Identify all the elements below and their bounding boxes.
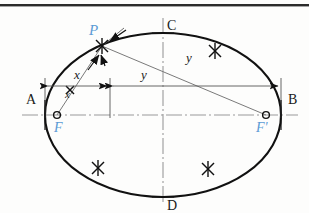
label-covertex-c: C [167, 18, 176, 33]
label-distance-y: y [139, 67, 147, 82]
label-point-p: P [88, 22, 98, 38]
label-focus-left: F [53, 120, 63, 135]
label-distance-y-upper: y [184, 50, 192, 65]
label-distance-x-lower: x [64, 88, 70, 100]
label-covertex-d: D [167, 198, 177, 213]
label-vertex-a: A [26, 92, 37, 107]
figure-canvas: A B C D F F' P x y x y [0, 0, 309, 213]
label-focus-right: F' [255, 120, 269, 135]
top-rule-shadow [0, 6, 309, 7]
ellipse-construction-figure: A B C D F F' P x y x y [0, 0, 309, 213]
top-rule [0, 4, 309, 6]
label-vertex-b: B [288, 92, 297, 107]
label-distance-x: x [73, 67, 80, 82]
